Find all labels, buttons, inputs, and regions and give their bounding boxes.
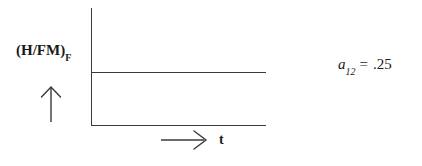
arrow-right-icon [160, 128, 210, 152]
y-axis-label-subscript: F [65, 52, 71, 63]
annotation-variable: a [338, 56, 346, 72]
annotation-equation: a12=.25 [338, 56, 392, 75]
annotation-operator: = [360, 56, 368, 72]
figure-canvas: (H/FM)F t a12=.25 [0, 0, 422, 166]
data-series-line [91, 72, 266, 73]
x-axis-label: t [219, 132, 224, 148]
arrow-up-icon [38, 84, 64, 122]
y-axis-label: (H/FM)F [16, 42, 71, 61]
x-axis-line [91, 125, 266, 126]
annotation-subscript: 12 [346, 66, 356, 77]
y-axis-label-text: (H/FM) [16, 42, 65, 58]
annotation-value: .25 [373, 56, 392, 72]
y-axis-line [91, 8, 92, 126]
